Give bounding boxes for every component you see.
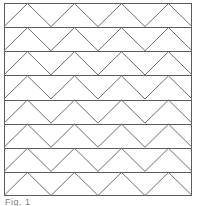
tessellation-diagram bbox=[4, 3, 192, 196]
tessellation-frame bbox=[4, 3, 192, 196]
figure-caption: Fig. 1 bbox=[5, 197, 125, 206]
figure-root: Fig. 1 bbox=[0, 0, 197, 206]
